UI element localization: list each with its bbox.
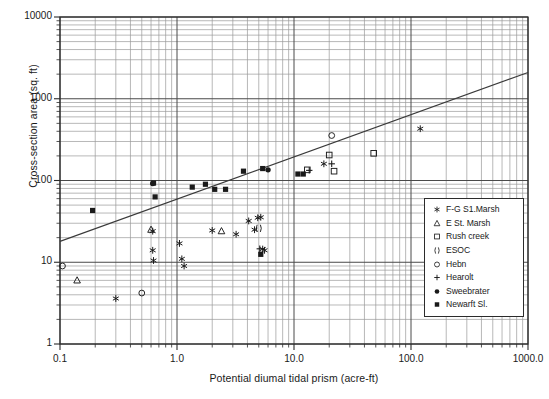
legend-item-asterisk[interactable]: F-G S1.Marsh	[428, 203, 520, 217]
data-point	[151, 257, 157, 264]
legend-item-parens[interactable]: ESOC	[428, 244, 520, 258]
triangle-open-icon	[428, 217, 446, 230]
legend-item-label: ESOC	[446, 244, 470, 257]
data-point	[209, 227, 215, 234]
legend-item-square-open[interactable]: Rush creek	[428, 230, 520, 244]
asterisk-icon	[428, 203, 446, 216]
legend-item-label: Newarft Sl.	[446, 298, 487, 311]
data-point	[233, 231, 239, 238]
data-points	[60, 125, 424, 302]
data-point	[150, 247, 156, 254]
legend-item-label: Rush creek	[446, 230, 489, 243]
square-open-icon	[428, 230, 446, 243]
x-tick-label: 1.0	[147, 353, 207, 364]
legend-item-label: F-G S1.Marsh	[446, 203, 499, 216]
data-point	[301, 171, 306, 176]
data-point	[258, 252, 263, 257]
legend-item-plus[interactable]: Hearolt	[428, 271, 520, 285]
y-tick-label: 100	[6, 174, 52, 185]
legend-item-label: Hebn	[446, 258, 466, 271]
data-point	[203, 182, 208, 187]
data-point	[212, 187, 217, 192]
y-tick-label: 1	[6, 337, 52, 348]
legend-item-circle-open[interactable]: Hebn	[428, 257, 520, 271]
data-point	[90, 208, 95, 213]
y-tick-label: 10	[6, 255, 52, 266]
legend-item-circle-filled[interactable]: Sweebrater	[428, 285, 520, 299]
y-axis-label: Cross-section area (sq. ft)	[27, 36, 39, 216]
x-tick-label: 0.1	[30, 353, 90, 364]
legend-item-label: Sweebrater	[446, 285, 489, 298]
data-point	[223, 187, 228, 192]
data-point	[260, 166, 265, 171]
chart-figure: Cross-section area (sq. ft) Potential di…	[0, 0, 549, 399]
data-point	[295, 171, 300, 176]
legend-item-label: Hearolt	[446, 271, 473, 284]
data-point	[331, 168, 337, 174]
x-tick-label: 1000.0	[498, 353, 549, 364]
x-tick-label: 10.0	[264, 353, 324, 364]
data-point	[321, 160, 327, 167]
plus-icon	[428, 271, 446, 284]
data-point	[113, 295, 119, 302]
data-point	[257, 246, 263, 252]
data-point	[190, 185, 195, 190]
parens-icon	[428, 244, 446, 257]
data-point	[179, 255, 185, 262]
data-point	[74, 277, 81, 283]
x-axis-label: Potential diumal tidal prism (acre-ft)	[60, 372, 528, 384]
data-point	[329, 133, 335, 139]
legend-item-triangle-open[interactable]: E St. Marsh	[428, 217, 520, 231]
data-point	[265, 167, 270, 172]
data-point	[153, 194, 158, 199]
legend-item-square-filled[interactable]: Newarft Sl.	[428, 298, 520, 312]
chart-legend: F-G S1.MarshE St. MarshRush creekESOCHeb…	[424, 198, 524, 317]
x-tick-label: 100.0	[381, 353, 441, 364]
circle-filled-icon	[428, 285, 446, 298]
data-point	[151, 180, 156, 185]
circle-open-icon	[428, 258, 446, 271]
y-tick-label: 10000	[6, 10, 52, 21]
data-point	[241, 169, 246, 174]
square-filled-icon	[428, 298, 446, 311]
legend-item-label: E St. Marsh	[446, 217, 490, 230]
data-point	[218, 228, 225, 234]
y-tick-label: 1000	[6, 92, 52, 103]
